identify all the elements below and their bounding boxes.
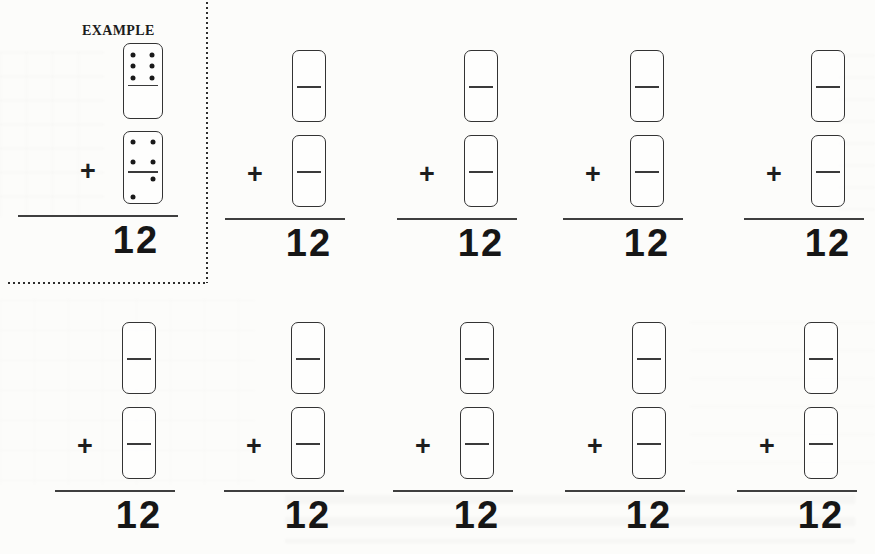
domino-divider-line [297, 86, 322, 88]
domino-divider-line [637, 443, 662, 445]
plus-operator: + [419, 161, 435, 188]
plus-operator: + [247, 161, 263, 188]
answer-value: 12 [563, 224, 683, 264]
domino-divider-line [637, 358, 662, 360]
blank-domino [804, 407, 838, 479]
operand-row [225, 50, 345, 122]
answer-line [565, 490, 685, 492]
answer-line [397, 218, 517, 220]
operand-row [18, 43, 178, 119]
operand-row [393, 322, 513, 394]
operand-row: + [744, 135, 864, 207]
operand-row [224, 322, 344, 394]
domino-bottom-half [124, 85, 162, 118]
domino-divider-line [465, 358, 490, 360]
domino-6-0 [123, 43, 163, 119]
answer-line [744, 218, 864, 220]
domino-divider-line [296, 443, 321, 445]
example-problem: EXAMPLE + 12 [18, 24, 178, 261]
blank-domino [811, 50, 845, 122]
operand-row [737, 322, 857, 394]
addition-problem: + 12 [55, 322, 175, 536]
domino-divider-line [635, 86, 660, 88]
domino-divider-line [127, 358, 152, 360]
operand-row: + [224, 407, 344, 479]
operand-row [397, 50, 517, 122]
blank-domino [291, 322, 325, 394]
domino-divider-line [816, 171, 841, 173]
domino-divider-line [635, 171, 660, 173]
operand-row: + [225, 135, 345, 207]
blank-domino [122, 407, 156, 479]
blank-domino [464, 50, 498, 122]
answer-value: 12 [744, 224, 864, 264]
domino-divider-line [809, 443, 834, 445]
example-dotted-border-vertical [206, 2, 208, 283]
plus-operator: + [759, 433, 775, 460]
example-dotted-border-horizontal [8, 282, 208, 284]
blank-domino [811, 135, 845, 207]
answer-value: 12 [737, 496, 857, 536]
blank-domino [630, 135, 664, 207]
answer-line [224, 490, 344, 492]
pip-dot [131, 64, 136, 69]
domino-divider-line [297, 171, 322, 173]
pip-dot [150, 64, 155, 69]
blank-domino [292, 50, 326, 122]
pip-dot [150, 76, 155, 81]
domino-divider-line [469, 171, 494, 173]
pip-dot [150, 160, 155, 165]
answer-value: 12 [397, 224, 517, 264]
operand-row: + [393, 407, 513, 479]
operand-row [55, 322, 175, 394]
blank-domino [804, 322, 838, 394]
addition-problem: + 12 [225, 50, 345, 264]
plus-operator: + [80, 157, 96, 184]
operand-row [744, 50, 864, 122]
domino-top-half [124, 44, 162, 85]
addition-problem: + 12 [397, 50, 517, 264]
addition-problem: + 12 [744, 50, 864, 264]
domino-divider-line [127, 443, 152, 445]
pip-dot [131, 76, 136, 81]
domino-bottom-half [124, 171, 162, 203]
answer-line [563, 218, 683, 220]
operand-row: + [565, 407, 685, 479]
answer-line [18, 215, 178, 217]
blank-domino [464, 135, 498, 207]
answer-line [737, 490, 857, 492]
domino-divider-line [469, 86, 494, 88]
pip-dot [131, 52, 136, 57]
blank-domino [460, 407, 494, 479]
answer-value: 12 [225, 224, 345, 264]
domino-divider-line [465, 443, 490, 445]
worksheet-page: EXAMPLE + 12 + 12 [0, 0, 875, 554]
domino-divider-line [816, 86, 841, 88]
pip-dot [131, 160, 136, 165]
operand-row: + [397, 135, 517, 207]
domino-divider-line [809, 358, 834, 360]
answer-line [393, 490, 513, 492]
operand-row: + [737, 407, 857, 479]
operand-row [563, 50, 683, 122]
pip-dot [150, 139, 155, 144]
blank-domino [292, 135, 326, 207]
operand-row [565, 322, 685, 394]
answer-value: 12 [18, 221, 178, 261]
plus-operator: + [415, 433, 431, 460]
operand-row: + [55, 407, 175, 479]
answer-line [55, 490, 175, 492]
addition-problem: + 12 [565, 322, 685, 536]
domino-4-2 [123, 131, 163, 204]
addition-problem: + 12 [563, 50, 683, 264]
addition-problem: + 12 [393, 322, 513, 536]
operand-row: + [563, 135, 683, 207]
pip-dot [150, 52, 155, 57]
plus-operator: + [77, 433, 93, 460]
domino-top-half [124, 132, 162, 171]
plus-operator: + [587, 433, 603, 460]
operand-row: + [18, 131, 178, 204]
answer-value: 12 [55, 496, 175, 536]
blank-domino [632, 407, 666, 479]
blank-domino [632, 322, 666, 394]
